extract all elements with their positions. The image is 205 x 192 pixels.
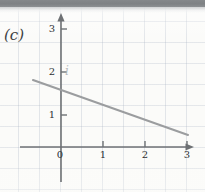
figure-canvas: (c) 0 1 2 3 1 2 3 i: [0, 0, 205, 192]
x-tick-label-1: 1: [97, 150, 109, 160]
y-tick-label-2: 2: [44, 67, 55, 77]
up-arrow-icon: [57, 13, 64, 22]
axis-ticks: [61, 29, 187, 147]
axes-and-plot: [0, 0, 205, 192]
x-tick-label-0: 0: [54, 150, 66, 160]
y-tick-label-3: 3: [44, 24, 55, 34]
x-tick-label-3: 3: [181, 150, 193, 160]
line-annotation-label: i: [65, 64, 69, 78]
y-tick-label-1: 1: [44, 110, 55, 120]
x-tick-label-2: 2: [139, 150, 151, 160]
plotted-line-i: [33, 80, 188, 135]
